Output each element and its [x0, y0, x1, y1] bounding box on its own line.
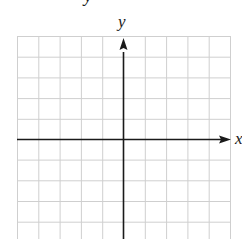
y-axis-arrow-icon — [120, 38, 128, 50]
x-axis-label: x — [234, 129, 242, 148]
y-axis — [120, 38, 128, 239]
y-axis-label: y — [116, 12, 126, 31]
coordinate-grid-diagram: y y x — [0, 0, 242, 239]
cropped-title-fragment: y — [82, 0, 92, 6]
